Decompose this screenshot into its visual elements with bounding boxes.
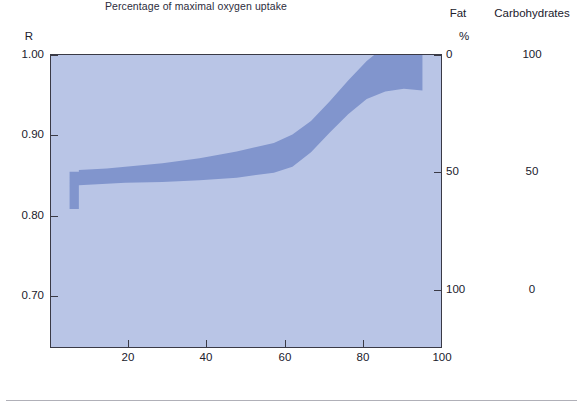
y-tick-mark-0.90 bbox=[50, 135, 58, 136]
y-tick-mark-0.80 bbox=[50, 216, 58, 217]
fat-tick-label-50: 50 bbox=[446, 166, 480, 178]
r-band-area bbox=[51, 55, 441, 347]
y-axis-title: R bbox=[16, 31, 42, 43]
footer-divider bbox=[6, 400, 577, 401]
x-tick-label-40: 40 bbox=[186, 352, 226, 364]
x-tick-mark-60 bbox=[285, 340, 286, 348]
fat-tick-mark-50 bbox=[434, 172, 442, 173]
carbohydrates-tick-label-100: 100 bbox=[482, 49, 582, 61]
figure-container: Fat Carbohydrates % R 1.00 0.90 0.80 0.7… bbox=[0, 0, 583, 408]
x-tick-label-20: 20 bbox=[108, 352, 148, 364]
carbohydrates-tick-label-50: 50 bbox=[482, 166, 582, 178]
plot-area bbox=[50, 54, 442, 348]
y-tick-label-1.00: 1.00 bbox=[2, 49, 44, 61]
percent-unit-label: % bbox=[452, 31, 476, 43]
fat-column-header: Fat bbox=[434, 8, 482, 20]
y-tick-label-0.70: 0.70 bbox=[2, 290, 44, 302]
fat-tick-label-100: 100 bbox=[446, 284, 480, 296]
x-tick-label-100: 100 bbox=[422, 352, 462, 364]
x-tick-mark-40 bbox=[206, 340, 207, 348]
carbohydrates-tick-label-0: 0 bbox=[482, 284, 582, 296]
y-tick-label-0.90: 0.90 bbox=[2, 129, 44, 141]
x-tick-label-60: 60 bbox=[265, 352, 305, 364]
y-tick-mark-1.00 bbox=[50, 55, 58, 56]
x-tick-mark-80 bbox=[363, 340, 364, 348]
x-tick-mark-20 bbox=[128, 340, 129, 348]
y-tick-mark-0.70 bbox=[50, 296, 58, 297]
y-tick-label-0.80: 0.80 bbox=[2, 210, 44, 222]
r-band-path bbox=[70, 55, 423, 209]
fat-tick-label-0: 0 bbox=[446, 49, 480, 61]
x-axis-title: Percentage of maximal oxygen uptake bbox=[0, 0, 392, 12]
fat-tick-mark-100 bbox=[434, 290, 442, 291]
carbohydrates-column-header: Carbohydrates bbox=[482, 8, 582, 20]
x-tick-label-80: 80 bbox=[343, 352, 383, 364]
fat-tick-mark-0 bbox=[434, 55, 442, 56]
